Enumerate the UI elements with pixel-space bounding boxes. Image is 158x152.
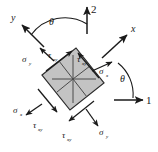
sigma-x-subscript-1: x	[105, 73, 109, 78]
label-sigma-y-bottom: σ y	[99, 127, 109, 139]
theta-label-right: θ	[120, 73, 125, 84]
tau-xy-subscript-4: xy	[66, 137, 72, 142]
theta-label-top: θ	[49, 16, 54, 27]
label-sigma-x-right: σ x	[99, 66, 109, 78]
arrow-tau-xy-bottom-left	[38, 89, 57, 112]
arrow-sigma-y-top	[40, 48, 54, 61]
tau-glyph-4: τ	[62, 130, 66, 140]
theta-arc-top	[31, 18, 87, 35]
local-axis-x	[102, 35, 127, 58]
axis-y-label: y	[10, 12, 16, 23]
label-tau-xy-bottom-left: τ xy	[33, 120, 43, 132]
sigma-glyph-3: σ	[13, 105, 18, 115]
tau-xy-subscript-1: xy	[52, 57, 58, 62]
local-axis-y	[22, 25, 44, 47]
stress-element-square	[42, 48, 104, 110]
axis-x-label: x	[130, 23, 136, 34]
label-sigma-y-top: σ y	[22, 54, 32, 66]
sigma-glyph-4: σ	[99, 127, 104, 137]
sigma-y-subscript-2: y	[105, 134, 109, 139]
tau-xy-subscript-2: xy	[81, 61, 87, 66]
label-sigma-x-left: σ x	[13, 105, 23, 117]
tau-xy-subscript-3: xy	[37, 127, 43, 132]
stress-diagram-canvas: 2 1 y x θ θ	[0, 0, 158, 152]
axis-2-label: 2	[91, 3, 97, 15]
axis-1-label: 1	[146, 94, 152, 106]
sigma-glyph-1: σ	[22, 54, 27, 64]
sigma-y-subscript-1: y	[28, 61, 32, 66]
tau-glyph-3: τ	[33, 120, 37, 130]
stress-element-figure: 2 1 y x θ θ	[0, 0, 158, 152]
label-tau-xy-top-left: τ xy	[48, 50, 58, 62]
sigma-x-subscript-2: x	[19, 112, 23, 117]
arrow-sigma-y-bottom	[86, 109, 98, 126]
arrow-sigma-x-left	[26, 104, 42, 115]
label-tau-xy-bottom-right: τ xy	[62, 130, 72, 142]
sigma-glyph-2: σ	[99, 66, 104, 76]
